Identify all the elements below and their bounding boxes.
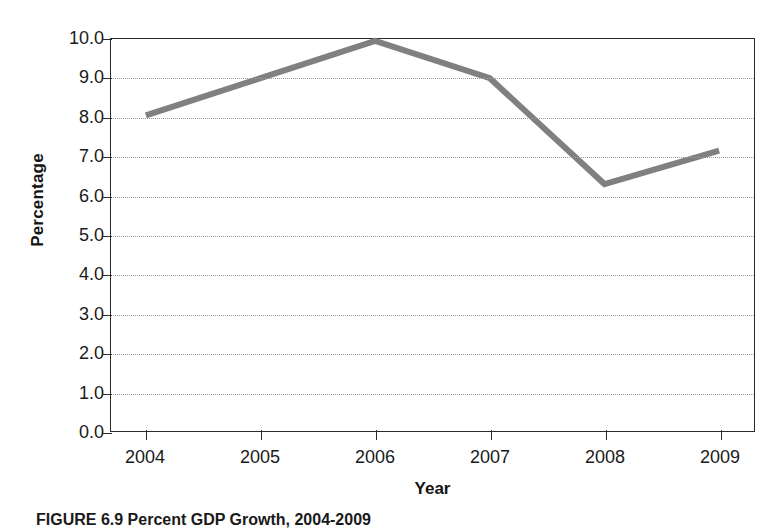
y-tick-mark bbox=[103, 315, 112, 316]
y-tick-label: 0.0 bbox=[20, 423, 104, 441]
y-tick-mark bbox=[103, 197, 112, 198]
y-tick-label: 2.0 bbox=[20, 344, 104, 362]
x-tick-label: 2009 bbox=[700, 446, 740, 468]
gridline bbox=[111, 394, 754, 395]
gridline bbox=[111, 197, 754, 198]
x-tick-mark bbox=[376, 430, 377, 440]
line-series-svg bbox=[111, 39, 754, 431]
figure-caption: FIGURE 6.9 Percent GDP Growth, 2004-2009 bbox=[36, 511, 371, 529]
y-tick-label: 6.0 bbox=[20, 187, 104, 205]
x-tick-label: 2005 bbox=[240, 446, 280, 468]
gridline bbox=[111, 236, 754, 237]
gridline bbox=[111, 78, 754, 79]
x-tick-mark bbox=[261, 430, 262, 440]
y-tick-label: 5.0 bbox=[20, 226, 104, 244]
gridline bbox=[111, 275, 754, 276]
x-tick-mark bbox=[721, 430, 722, 440]
y-tick-mark bbox=[103, 394, 112, 395]
gridline bbox=[111, 118, 754, 119]
figure-caption-text: Percent GDP Growth, 2004-2009 bbox=[128, 511, 371, 528]
x-tick-mark bbox=[606, 430, 607, 440]
figure-caption-label: FIGURE 6.9 bbox=[36, 511, 123, 528]
y-tick-label: 8.0 bbox=[20, 108, 104, 126]
gridline bbox=[111, 157, 754, 158]
x-tick-label: 2004 bbox=[125, 446, 165, 468]
x-tick-mark bbox=[146, 430, 147, 440]
x-tick-mark bbox=[491, 430, 492, 440]
gridline bbox=[111, 315, 754, 316]
y-tick-mark bbox=[103, 354, 112, 355]
y-tick-label: 1.0 bbox=[20, 384, 104, 402]
y-tick-mark bbox=[103, 78, 112, 79]
plot-area bbox=[110, 38, 755, 432]
x-tick-label: 2007 bbox=[470, 446, 510, 468]
y-tick-label: 7.0 bbox=[20, 147, 104, 165]
y-tick-mark bbox=[103, 236, 112, 237]
y-tick-mark bbox=[103, 157, 112, 158]
x-tick-label: 2006 bbox=[355, 446, 395, 468]
y-tick-mark bbox=[103, 39, 112, 40]
y-tick-mark bbox=[103, 433, 112, 434]
x-axis-tick-labels: 200420052006200720082009 bbox=[110, 446, 755, 472]
y-tick-mark bbox=[103, 275, 112, 276]
x-tick-label: 2008 bbox=[585, 446, 625, 468]
y-tick-label: 9.0 bbox=[20, 68, 104, 86]
gridline bbox=[111, 354, 754, 355]
x-axis-title: Year bbox=[110, 479, 755, 499]
y-axis-tick-labels: 10.09.08.07.06.05.04.03.02.01.00.0 bbox=[20, 38, 104, 432]
y-tick-mark bbox=[103, 118, 112, 119]
y-tick-label: 10.0 bbox=[20, 29, 104, 47]
y-tick-label: 3.0 bbox=[20, 305, 104, 323]
y-tick-label: 4.0 bbox=[20, 265, 104, 283]
line-series-path bbox=[146, 41, 719, 184]
